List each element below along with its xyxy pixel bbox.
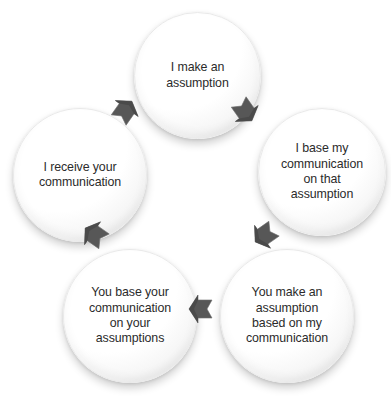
arrow-left-to-top-icon [108, 94, 142, 128]
cycle-node-label: I receive your communication [33, 160, 127, 191]
cycle-node-i-base-my-communication[interactable]: I base my communication on that assumpti… [258, 108, 386, 236]
cycle-node-label: I make an assumption [160, 60, 234, 91]
cycle-node-label: You base your communication on your assu… [83, 285, 177, 347]
cycle-node-you-base-your-communication[interactable]: You base your communication on your assu… [63, 249, 197, 383]
cycle-node-label: You make an assumption based on my commu… [240, 285, 334, 347]
communication-cycle-diagram: I make an assumption I base my communica… [0, 0, 391, 396]
arrow-top-to-right-icon [228, 94, 262, 128]
arrow-right-to-bottom-right-icon [248, 218, 282, 252]
cycle-node-label: I base my communication on that assumpti… [275, 141, 369, 203]
arrow-bottom-left-to-left-icon [78, 218, 112, 252]
arrow-bottom-right-to-bottom-left-icon [184, 292, 218, 326]
cycle-node-you-make-an-assumption[interactable]: You make an assumption based on my commu… [220, 249, 354, 383]
